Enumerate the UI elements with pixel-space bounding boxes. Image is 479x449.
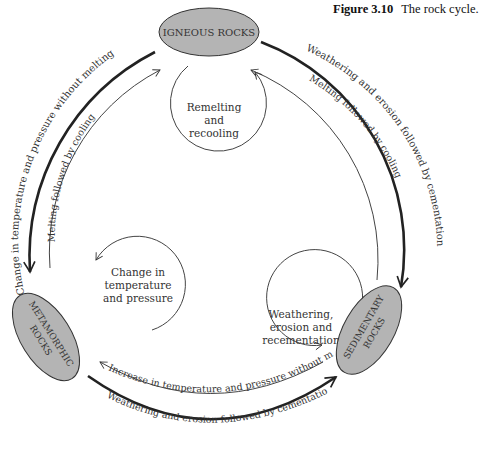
loop-metamorphic: Change in temperature and pressure <box>96 236 185 333</box>
igneous-label: IGNEOUS ROCKS <box>163 27 255 38</box>
label-sedimentary-to-igneous: Melting followed by cooling <box>308 72 405 179</box>
loop-metamorphic-line3: and pressure <box>103 292 173 304</box>
figure-label: Figure 3.10 <box>333 2 393 16</box>
node-igneous-rocks: IGNEOUS ROCKS <box>159 8 259 56</box>
loop-metamorphic-line2: temperature <box>105 279 172 291</box>
node-metamorphic-rocks: METAMORPHIC ROCKS <box>0 282 93 392</box>
node-sedimentary-rocks: SEDIMENTARY ROCKS <box>323 275 415 385</box>
loop-igneous-line2: and <box>204 114 224 126</box>
arrow-sedimentary-to-igneous <box>251 70 378 280</box>
loop-sedimentary-line2: erosion and <box>270 321 333 333</box>
loop-sedimentary-line3: recementation <box>262 334 340 346</box>
loop-igneous-line3: recooling <box>189 127 239 139</box>
loop-sedimentary-line1: Weathering, <box>269 308 334 320</box>
loop-igneous-line1: Remelting <box>187 101 242 113</box>
loop-metamorphic-line1: Change in <box>111 266 165 278</box>
arrow-igneous-to-sedimentary <box>261 42 404 287</box>
figure-title: The rock cycle. <box>401 2 478 16</box>
loop-igneous: Remelting and recooling <box>170 66 266 151</box>
figure-caption: Figure 3.10The rock cycle. <box>333 2 479 17</box>
